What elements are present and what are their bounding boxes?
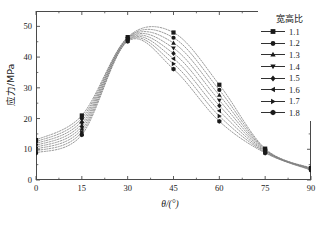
legend-label: 1.7 [286,96,300,106]
legend: 宽高比 1.11.21.31.41.51.61.71.8 [258,10,320,121]
x-tick-label: 30 [116,183,140,193]
legend-item[interactable]: 1.6 [260,84,318,96]
y-tick-label: 40 [10,52,32,62]
x-tick-label: 45 [162,183,186,193]
legend-marker-icon [260,38,286,49]
legend-marker-icon [260,26,286,37]
y-tick-label: 30 [10,83,32,93]
legend-item[interactable]: 1.4 [260,61,318,73]
x-tick-label: 15 [70,183,94,193]
legend-item[interactable]: 1.3 [260,49,318,61]
legend-label: 1.3 [286,50,300,60]
legend-item[interactable]: 1.8 [260,107,318,119]
legend-label: 1.4 [286,62,300,72]
legend-title: 宽高比 [260,12,318,25]
x-tick-label: 90 [299,183,323,193]
legend-marker-icon [260,84,286,95]
legend-label: 1.2 [286,38,300,48]
legend-marker-icon [260,96,286,107]
y-tick-label: 20 [10,114,32,124]
legend-item[interactable]: 1.1 [260,26,318,38]
legend-item[interactable]: 1.7 [260,96,318,108]
legend-marker-icon [260,49,286,60]
x-tick-label: 60 [207,183,231,193]
legend-marker-icon [260,107,286,118]
legend-label: 1.8 [286,108,300,118]
x-axis-title: θ/(°) [140,199,200,209]
stress-angle-chart: 应力/MPa θ/(°) 015304560759001020304050 宽高… [0,0,330,230]
legend-marker-icon [260,61,286,72]
legend-item[interactable]: 1.2 [260,38,318,50]
y-tick-label: 50 [10,21,32,31]
legend-label: 1.1 [286,27,300,37]
legend-label: 1.5 [286,73,300,83]
legend-item[interactable]: 1.5 [260,72,318,84]
legend-label: 1.6 [286,85,300,95]
legend-marker-icon [260,73,286,84]
legend-entries: 1.11.21.31.41.51.61.71.8 [260,26,318,119]
y-tick-label: 10 [10,144,32,154]
y-tick-label: 0 [10,175,32,185]
x-tick-label: 75 [253,183,277,193]
